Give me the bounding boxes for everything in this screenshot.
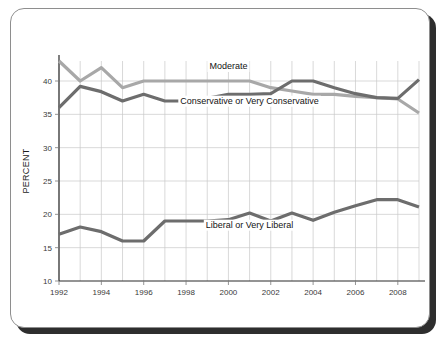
x-axis-tick-label: 1994 <box>92 288 110 297</box>
screenshot-stage: 1015202530354019921994199619982000200220… <box>0 0 446 346</box>
x-axis-tick-label: 1998 <box>177 288 195 297</box>
x-axis-tick-label: 2002 <box>262 288 280 297</box>
x-axis-tick-label: 2004 <box>304 288 322 297</box>
chart-plot-area: 1015202530354019921994199619982000200220… <box>11 9 430 328</box>
series-label-moderate: Moderate <box>209 61 247 71</box>
x-axis-tick-label: 1996 <box>135 288 153 297</box>
series-label-liberal-or-very-liberal: Liberal or Very Liberal <box>206 220 294 230</box>
y-axis-tick-label: 20 <box>43 210 52 219</box>
x-axis-tick-label: 2006 <box>347 288 365 297</box>
chart-card: 1015202530354019921994199619982000200220… <box>10 8 430 328</box>
y-axis-tick-label: 15 <box>43 244 52 253</box>
x-axis-tick-label: 2000 <box>220 288 238 297</box>
line-chart: 1015202530354019921994199619982000200220… <box>11 9 430 328</box>
y-axis-tick-label: 30 <box>43 144 52 153</box>
y-axis-tick-label: 40 <box>43 77 52 86</box>
y-axis-title: PERCENT <box>21 148 31 193</box>
x-axis-tick-label: 2008 <box>389 288 407 297</box>
y-axis-tick-label: 25 <box>43 177 52 186</box>
y-axis-tick-label: 35 <box>43 110 52 119</box>
x-axis-tick-label: 1992 <box>50 288 68 297</box>
y-axis-tick-label: 10 <box>43 277 52 286</box>
series-label-conservative-or-very-conservative: Conservative or Very Conservative <box>180 96 319 106</box>
